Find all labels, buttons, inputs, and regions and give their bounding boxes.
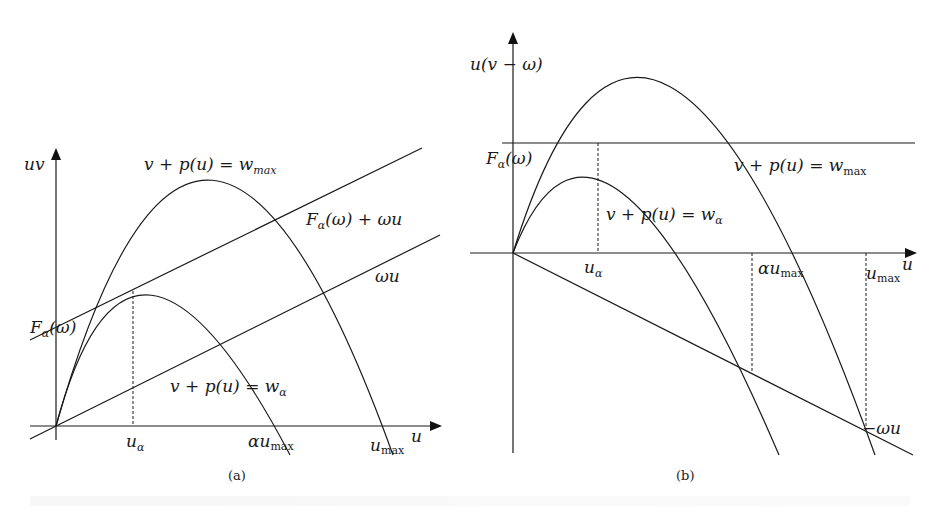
b-x-label: u <box>902 254 913 274</box>
a-y-label: uv <box>24 154 45 174</box>
a-walpha-label: v + p(u) = wα <box>170 376 287 399</box>
b-tick-ualpha: uα <box>584 257 603 280</box>
a-tick-alpha-umax: αumax <box>248 431 294 453</box>
a-tangent-line <box>30 148 422 340</box>
a-caption: (a) <box>228 468 246 483</box>
b-y-label: u(v − ω) <box>470 54 543 74</box>
b-curve-wmax <box>513 77 875 455</box>
b-neg-omega-line <box>513 253 913 455</box>
b-tick-alpha-umax: αumax <box>758 258 804 280</box>
b-tick-umax: umax <box>866 263 901 285</box>
b-level-label: Fα(ω) <box>485 148 532 171</box>
panel-a: uv v + p(u) = wmax Fα(ω) + ωu ωu Fα(ω) v… <box>24 148 440 483</box>
figure-canvas: uv v + p(u) = wmax Fα(ω) + ωu ωu Fα(ω) v… <box>0 0 946 515</box>
b-walpha-label: v + p(u) = wα <box>606 204 723 227</box>
a-omega-label: ωu <box>375 266 400 286</box>
b-neg-omega-label: −ωu <box>862 418 901 438</box>
a-wmax-label: v + p(u) = wmax <box>144 154 277 177</box>
a-tangent-label: Fα(ω) + ωu <box>305 209 402 232</box>
a-x-label: u <box>411 426 422 446</box>
panel-b: u(v − ω) Fα(ω) v + p(u) = wmax v + p(u) … <box>470 34 915 483</box>
b-wmax-label: v + p(u) = wmax <box>734 155 867 178</box>
a-tick-ualpha: uα <box>126 431 145 454</box>
a-intercept-label: Fα(ω) <box>29 317 76 340</box>
b-caption: (b) <box>676 468 694 483</box>
